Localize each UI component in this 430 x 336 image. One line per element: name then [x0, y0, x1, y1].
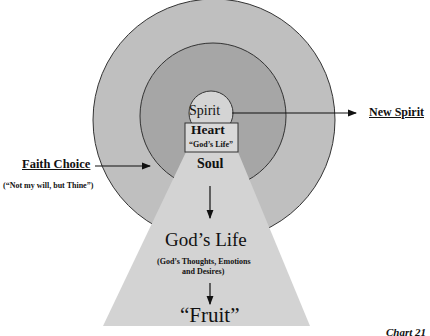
heart-sublabel: “God’s Life” [189, 140, 233, 149]
faith-choice-label: Faith Choice [22, 157, 90, 172]
fruit-label: “Fruit” [180, 303, 239, 328]
chart-caption: Chart 21 [386, 326, 426, 336]
spirit-label: Spirit [189, 103, 220, 119]
faith-choice-sub: (“Not my will, but Thine”) [3, 181, 93, 190]
gods-life-sub-line1: (God’s Thoughts, Emotions [157, 257, 251, 266]
soul-label: Soul [197, 156, 223, 172]
gods-life-sub-line2: and Desires) [182, 267, 224, 276]
new-spirit-label: New Spirit [369, 105, 424, 120]
heart-label: Heart [191, 122, 225, 138]
gods-life-label: God’s Life [165, 229, 247, 251]
